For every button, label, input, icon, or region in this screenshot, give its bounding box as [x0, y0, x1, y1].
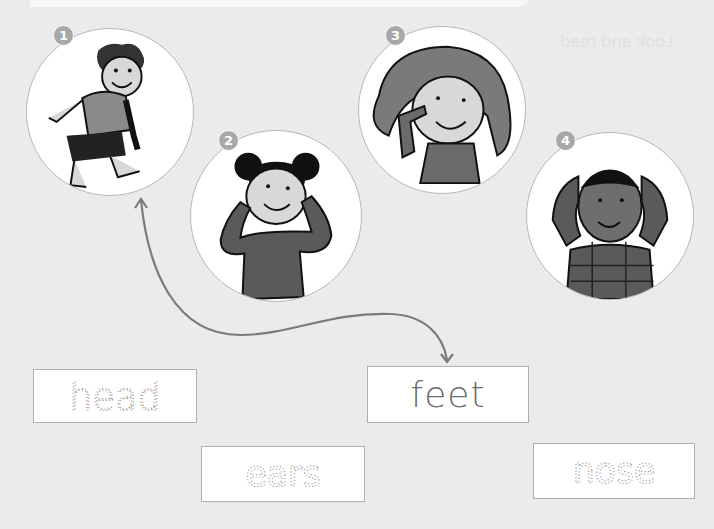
- picture-4-number-badge: 4: [555, 130, 576, 151]
- arrowhead-up-icon: [135, 199, 147, 208]
- dotted-word-head: head: [34, 370, 196, 422]
- girl-touching-nose-illustration: [359, 27, 525, 193]
- matching-activity: Look and read 1 2: [0, 0, 714, 529]
- picture-4-head[interactable]: [526, 132, 694, 300]
- word-box-feet[interactable]: feet: [367, 366, 529, 423]
- picture-1-feet[interactable]: [26, 28, 194, 196]
- picture-3-number-badge: 3: [385, 25, 406, 46]
- word-box-nose[interactable]: nose: [533, 443, 695, 499]
- word-feet: feet: [410, 374, 485, 415]
- instruction-banner: [30, 0, 530, 7]
- picture-2-ears[interactable]: [190, 130, 362, 302]
- svg-text:head: head: [69, 376, 160, 419]
- boy-touching-head-illustration: [527, 133, 693, 299]
- dotted-word-ears: ears: [202, 447, 364, 501]
- picture-1-number-badge: 1: [53, 25, 74, 46]
- picture-2-number-badge: 2: [218, 130, 239, 151]
- boy-touching-feet-illustration: [27, 29, 193, 195]
- svg-text:ears: ears: [246, 454, 321, 494]
- svg-text:nose: nose: [573, 451, 656, 491]
- word-box-ears[interactable]: ears: [201, 446, 365, 502]
- girl-touching-ears-illustration: [191, 131, 361, 301]
- dotted-word-nose: nose: [534, 444, 694, 498]
- word-box-head[interactable]: head: [33, 369, 197, 423]
- arrowhead-down-icon: [441, 354, 453, 362]
- picture-3-nose[interactable]: [358, 26, 526, 194]
- bleed-through-text: Look and read: [560, 32, 674, 51]
